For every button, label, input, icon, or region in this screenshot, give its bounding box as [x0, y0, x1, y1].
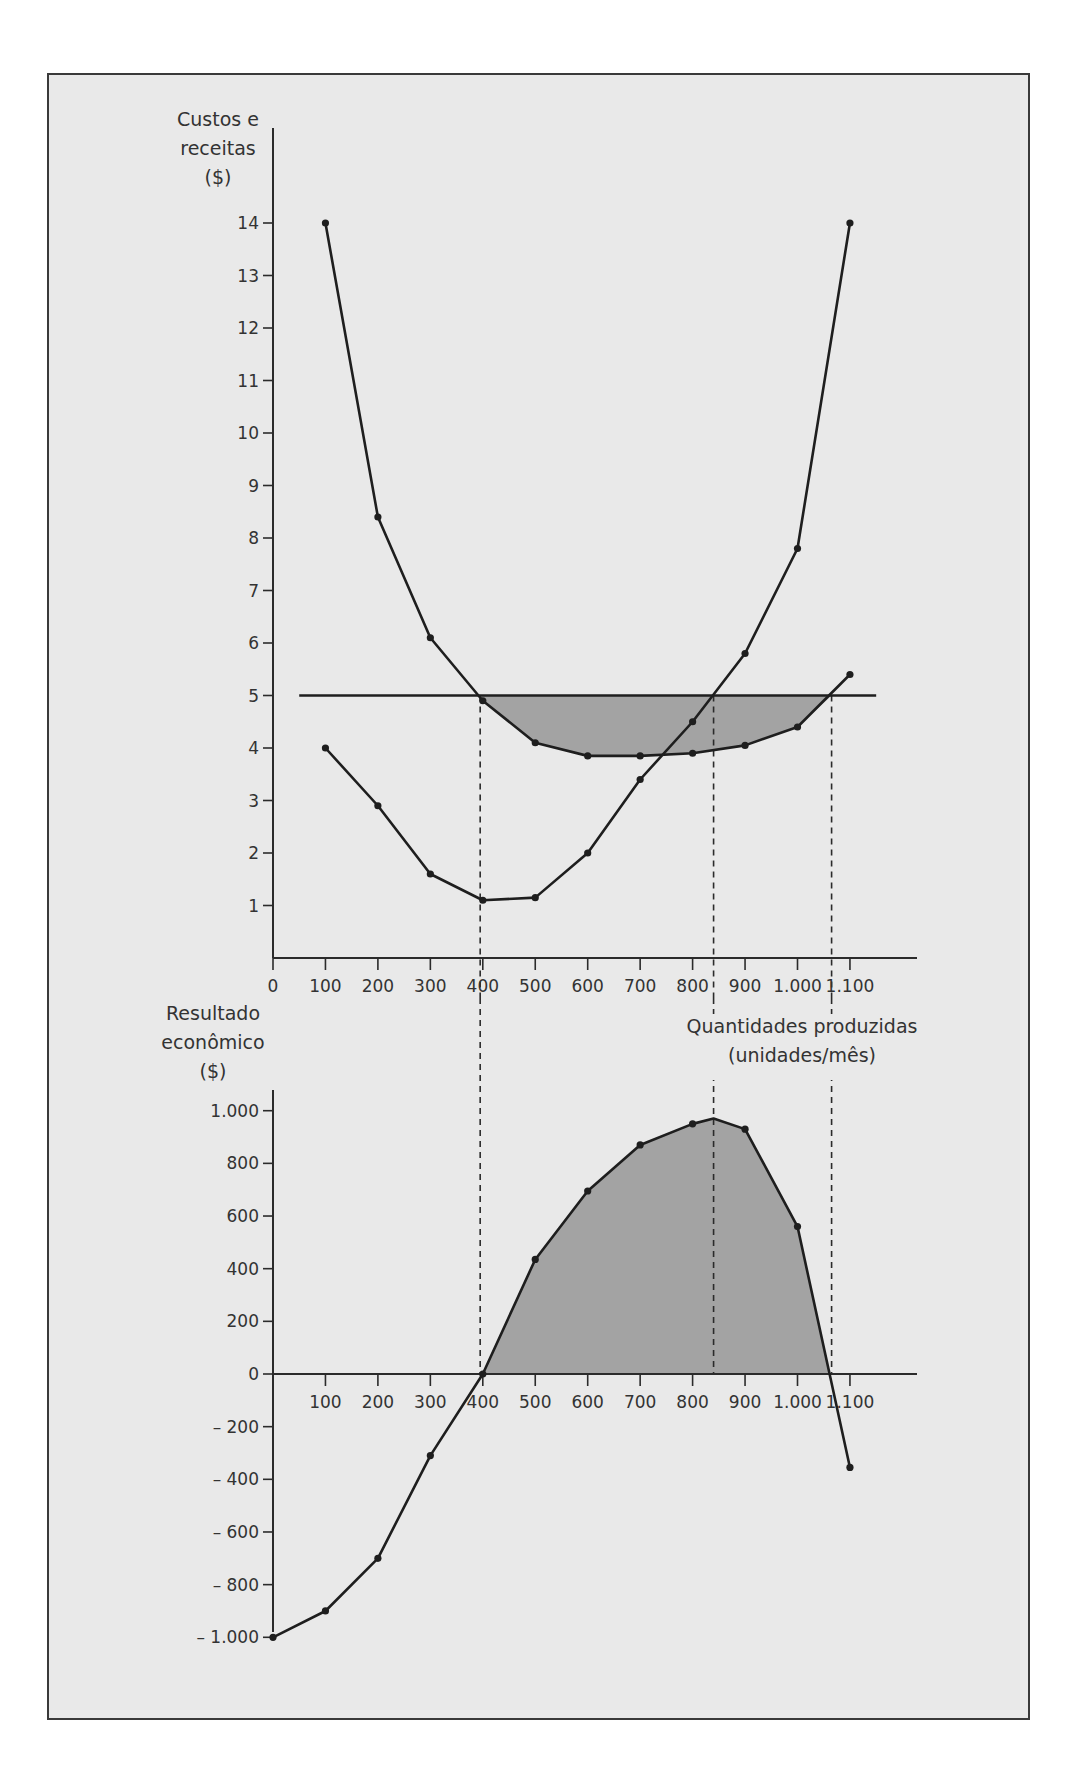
- data-point: [794, 545, 801, 552]
- x-tick-label: 600: [571, 976, 603, 996]
- y-axis-title-line-3: ($): [200, 1060, 227, 1082]
- costs-revenues-chart: 1234567891011121314010020030040050060070…: [177, 108, 917, 998]
- data-point: [374, 513, 381, 520]
- profit-region: [480, 696, 831, 756]
- y-axis-title-line-2: econômico: [161, 1031, 264, 1053]
- data-point: [374, 1555, 381, 1562]
- data-point: [637, 1141, 644, 1148]
- data-point: [846, 219, 853, 226]
- y-tick-label: 4: [248, 738, 259, 758]
- costs-axes: 1234567891011121314010020030040050060070…: [237, 128, 917, 996]
- y-tick-label: 2: [248, 843, 259, 863]
- x-tick-label: 300: [414, 976, 446, 996]
- y-tick-label: 9: [248, 476, 259, 496]
- y-tick-label: 7: [248, 581, 259, 601]
- data-point: [794, 1223, 801, 1230]
- y-tick-label: – 1.000: [196, 1627, 259, 1647]
- y-axis-title-line-3: ($): [205, 166, 232, 188]
- x-tick-label: 800: [676, 976, 708, 996]
- data-point: [322, 219, 329, 226]
- x-tick-label: 600: [571, 1392, 603, 1412]
- x-tick-label: 200: [362, 1392, 394, 1412]
- y-tick-label: – 600: [213, 1522, 259, 1542]
- y-axis-title-line-2: receitas: [180, 137, 256, 159]
- y-tick-label: 8: [248, 528, 259, 548]
- data-point: [532, 1256, 539, 1263]
- data-point: [479, 897, 486, 904]
- data-point: [427, 1452, 434, 1459]
- data-point: [584, 752, 591, 759]
- average-total-cost-curve: [325, 223, 850, 756]
- break-even-charts: 1234567891011121314010020030040050060070…: [0, 0, 1081, 1769]
- x-tick-label: 500: [519, 976, 551, 996]
- data-point: [689, 750, 696, 757]
- data-point: [637, 776, 644, 783]
- data-point: [584, 1187, 591, 1194]
- y-tick-label: 200: [227, 1311, 259, 1331]
- y-tick-label: 600: [227, 1206, 259, 1226]
- x-tick-label: 400: [467, 1392, 499, 1412]
- data-point: [322, 1607, 329, 1614]
- x-tick-label: 1.000: [773, 1392, 822, 1412]
- data-point: [741, 650, 748, 657]
- data-point: [532, 739, 539, 746]
- data-point: [846, 671, 853, 678]
- x-tick-label: 100: [309, 976, 341, 996]
- data-point: [846, 1464, 853, 1471]
- x-tick-label: 1.000: [773, 976, 822, 996]
- x-tick-label: 800: [676, 1392, 708, 1412]
- x-tick-label: 500: [519, 1392, 551, 1412]
- data-point: [584, 849, 591, 856]
- data-point: [374, 802, 381, 809]
- x-tick-label: 200: [362, 976, 394, 996]
- data-point: [269, 1634, 276, 1641]
- y-tick-label: 800: [227, 1153, 259, 1173]
- data-point: [794, 723, 801, 730]
- y-tick-label: 1: [248, 896, 259, 916]
- data-point: [479, 697, 486, 704]
- y-tick-label: – 400: [213, 1469, 259, 1489]
- y-tick-label: 3: [248, 791, 259, 811]
- x-tick-label: 1.100: [826, 976, 875, 996]
- y-tick-label: – 200: [213, 1417, 259, 1437]
- data-point: [689, 1120, 696, 1127]
- y-tick-label: 400: [227, 1259, 259, 1279]
- data-point: [427, 634, 434, 641]
- x-tick-label: 100: [309, 1392, 341, 1412]
- data-point: [741, 1126, 748, 1133]
- x-tick-label: 700: [624, 976, 656, 996]
- marginal-cost-curve: [325, 223, 850, 900]
- data-point: [689, 718, 696, 725]
- y-tick-label: 11: [237, 371, 259, 391]
- x-axis-title-line-2: (unidades/mês): [728, 1044, 876, 1066]
- x-tick-label: 900: [729, 976, 761, 996]
- y-tick-label: 0: [248, 1364, 259, 1384]
- y-tick-label: 1.000: [210, 1101, 259, 1121]
- data-point: [322, 744, 329, 751]
- x-tick-label: 300: [414, 1392, 446, 1412]
- x-tick-label: 900: [729, 1392, 761, 1412]
- positive-result-region: [483, 1119, 830, 1374]
- cost-curves: [299, 219, 876, 903]
- y-tick-label: 5: [248, 686, 259, 706]
- x-tick-label: 0: [268, 976, 279, 996]
- y-axis-title-line-1: Custos e: [177, 108, 259, 130]
- y-tick-label: – 800: [213, 1575, 259, 1595]
- y-tick-label: 12: [237, 318, 259, 338]
- y-tick-label: 13: [237, 266, 259, 286]
- y-axis-title-line-1: Resultado: [166, 1002, 260, 1024]
- data-point: [479, 1370, 486, 1377]
- profit-area-shade: [480, 696, 831, 756]
- x-tick-label: 700: [624, 1392, 656, 1412]
- y-tick-label: 6: [248, 633, 259, 653]
- data-point: [427, 870, 434, 877]
- x-axis-title-line-1: Quantidades produzidas: [687, 1015, 918, 1037]
- y-tick-label: 14: [237, 213, 259, 233]
- data-point: [637, 752, 644, 759]
- y-tick-label: 10: [237, 423, 259, 443]
- x-tick-label: 400: [467, 976, 499, 996]
- economic-result-chart: 1.0008006004002000– 200– 400– 600– 800– …: [161, 998, 960, 1647]
- data-point: [741, 742, 748, 749]
- data-point: [532, 894, 539, 901]
- positive-result-shade: [483, 1119, 830, 1374]
